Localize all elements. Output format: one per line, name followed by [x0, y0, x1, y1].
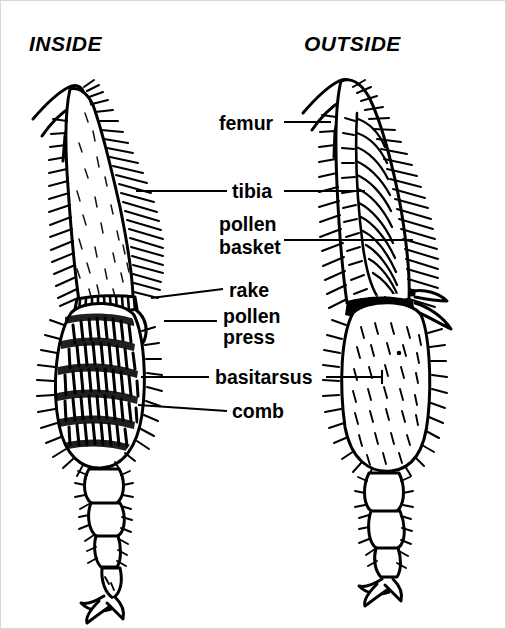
label-group: femur tibia pollen basket rake pollen pr… [215, 112, 313, 422]
label-pollen-press-line1: pollen [223, 305, 280, 327]
leg-diagram-canvas: INSIDE OUTSIDE [1, 1, 506, 629]
label-tibia: tibia [232, 180, 272, 202]
label-pollen-basket-line1: pollen [219, 213, 276, 235]
leader-rake [151, 289, 223, 298]
label-basitarsus: basitarsus [215, 366, 313, 388]
outside-tarsal-segments [355, 473, 413, 606]
label-femur: femur [219, 112, 274, 134]
anatomical-figure: INSIDE OUTSIDE [0, 0, 506, 629]
label-rake: rake [229, 279, 269, 301]
outside-basitarsus-outline [342, 303, 430, 471]
header-outside: OUTSIDE [304, 32, 401, 55]
outside-leg-drawing [303, 80, 451, 606]
label-pollen-press-line2: press [223, 326, 275, 348]
inside-leg-drawing [33, 80, 163, 623]
header-inside: INSIDE [29, 32, 103, 55]
inside-tarsal-segments [75, 469, 133, 623]
label-comb: comb [232, 400, 284, 422]
leader-comb [138, 405, 227, 411]
label-pollen-basket-line2: basket [219, 236, 281, 258]
